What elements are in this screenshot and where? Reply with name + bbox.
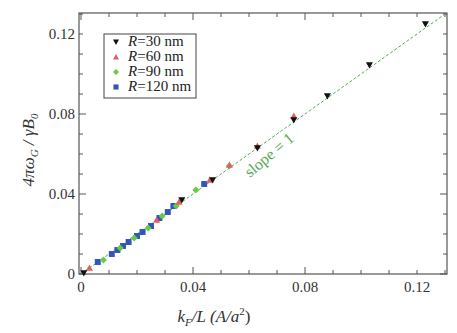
y-tick-label: 0.08 [49,106,75,122]
x-tick-label: 0.04 [180,279,207,295]
legend: R=30 nmR=60 nmR=90 nmR=120 nm [104,33,196,98]
x-tick-label: 0 [77,279,85,295]
x-tick-label: 0.08 [292,279,318,295]
series-r-120-nm [95,181,207,265]
x-tick-label: 0.12 [404,279,430,295]
slope-annotation: slope = 1 [241,129,298,181]
svg-text:R=90 nm: R=90 nm [127,63,184,79]
y-tick-label: 0.04 [49,186,76,202]
y-axis-label: 4πωG / γB0 [19,113,40,186]
scatter-chart: 00.040.080.1200.040.080.12 slope = 1 R=3… [0,0,457,333]
y-tick-label: 0.12 [49,26,75,42]
x-axis-label: kF/L (A/a2) [178,305,251,328]
svg-text:R=120 nm: R=120 nm [127,78,191,94]
y-tick-label: 0 [68,266,76,282]
svg-text:R=30 nm: R=30 nm [127,33,184,49]
svg-text:R=60 nm: R=60 nm [127,48,184,64]
